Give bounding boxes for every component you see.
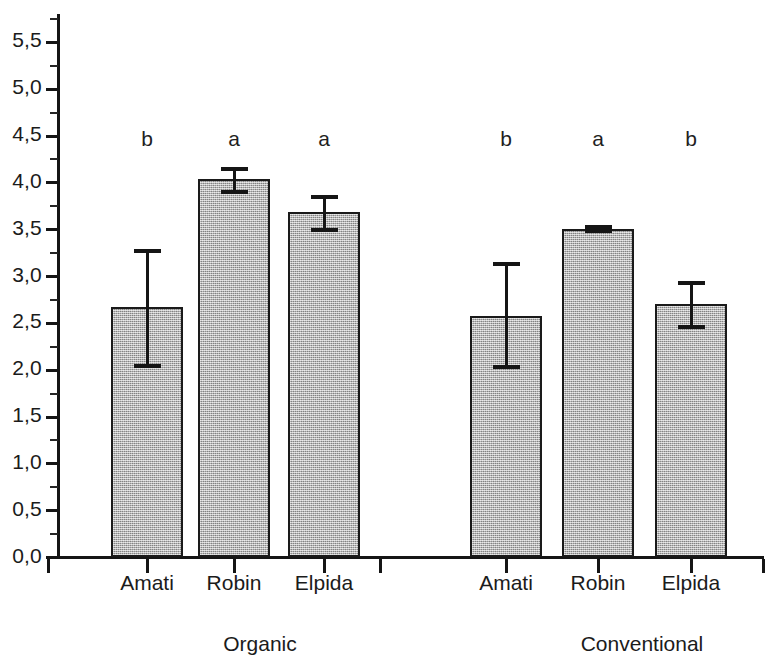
bar [655,304,727,558]
y-tick-label: 1,5 [12,403,42,427]
y-tick-minor [50,486,58,488]
significance-letter: b [476,127,536,151]
error-bar-cap-upper [134,249,161,253]
error-bar-stem [323,197,326,230]
y-tick-minor [50,533,58,535]
error-bar-cap-upper [493,262,520,266]
y-tick-minor [50,65,58,67]
y-tick-minor [50,439,58,441]
y-axis-line [57,14,60,559]
significance-letter: b [661,127,721,151]
error-bar-cap-lower [134,364,161,368]
y-tick-minor [50,346,58,348]
significance-letter: a [568,127,628,151]
x-tick-boundary [47,559,50,573]
x-tick-boundary [762,559,765,573]
x-category-label: Elpida [264,571,384,595]
error-bar-cap-lower [493,365,520,369]
y-tick-minor [50,158,58,160]
x-category-label: Elpida [631,571,751,595]
y-tick-label: 1,0 [12,450,42,474]
y-tick-label: 2,5 [12,309,42,333]
y-tick-label: 2,0 [12,356,42,380]
y-tick-label: 5,0 [12,75,42,99]
y-tick-major [46,462,58,465]
y-tick-major [46,369,58,372]
y-tick-label: 5,5 [12,28,42,52]
y-tick-label: 3,0 [12,263,42,287]
error-bar-stem [146,251,149,366]
y-tick-minor [50,393,58,395]
error-bar-stem [690,283,693,327]
error-bar-cap-upper [678,281,705,285]
y-tick-major [46,322,58,325]
y-tick-major [46,41,58,44]
significance-letter: a [204,127,264,151]
error-bar-cap-lower [678,325,705,329]
y-tick-major [46,416,58,419]
y-tick-label: 0,0 [12,544,42,568]
error-bar-cap-upper [311,195,338,199]
bar-chart: 0,00,51,01,52,02,53,03,54,04,55,05,5 bAm… [0,0,771,659]
y-tick-major [46,509,58,512]
y-tick-major [46,135,58,138]
error-bar-cap-upper [221,167,248,171]
y-tick-label: 0,5 [12,497,42,521]
y-tick-minor [50,252,58,254]
bar [288,212,360,558]
y-tick-minor [50,299,58,301]
error-bar-cap-lower [311,228,338,232]
y-tick-minor [50,18,58,20]
y-tick-label: 3,5 [12,216,42,240]
y-tick-minor [50,205,58,207]
y-tick-major [46,181,58,184]
chart-page: 0,00,51,01,52,02,53,03,54,04,55,05,5 bAm… [0,0,771,659]
y-tick-label: 4,0 [12,169,42,193]
error-bar-stem [233,169,236,192]
bar [198,179,270,557]
significance-letter: a [294,127,354,151]
y-tick-major [46,228,58,231]
y-tick-major [46,88,58,91]
significance-letter: b [117,127,177,151]
error-bar-cap-lower [221,190,248,194]
group-label-organic: Organic [130,632,390,656]
bar [562,229,634,558]
y-tick-label: 4,5 [12,122,42,146]
error-bar-cap-lower [585,229,612,233]
error-bar-stem [505,264,508,367]
y-tick-minor [50,112,58,114]
y-tick-major [46,275,58,278]
group-label-conventional: Conventional [512,632,771,656]
